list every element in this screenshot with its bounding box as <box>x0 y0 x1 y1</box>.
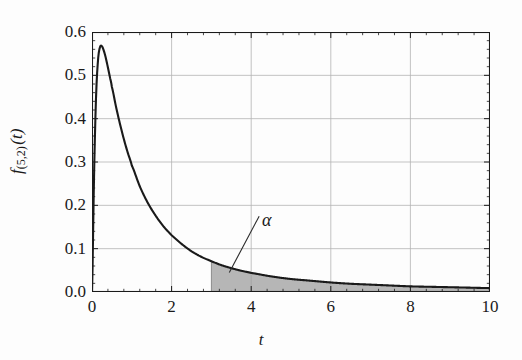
alpha-leader-line <box>229 216 259 272</box>
x-tick-label: 0 <box>72 298 112 315</box>
y-tick-label: 0.2 <box>38 196 86 213</box>
y-tick-label: 0.5 <box>38 66 86 83</box>
x-tick-label: 10 <box>470 298 510 315</box>
y-axis-label-base: f <box>7 169 26 174</box>
alpha-annotation-label: α <box>262 211 271 229</box>
figure-container: 0.00.10.20.30.40.50.6 0246810 t f(5,2) (… <box>0 0 522 360</box>
y-tick-label: 0.4 <box>38 110 86 127</box>
y-tick-label: 0.3 <box>38 153 86 170</box>
x-axis-label: t <box>0 330 522 350</box>
x-axis-tick-labels: 0246810 <box>92 298 490 322</box>
y-axis-tick-labels: 0.00.10.20.30.40.50.6 <box>34 32 86 292</box>
x-tick-label: 6 <box>311 298 351 315</box>
density-curve <box>92 46 490 292</box>
x-tick-label: 8 <box>390 298 430 315</box>
y-tick-label: 0.1 <box>38 240 86 257</box>
gridlines <box>92 32 490 292</box>
plot-svg <box>92 32 490 292</box>
y-axis-label: f(5,2) (t) <box>7 71 30 231</box>
y-axis-label-subscript: (5,2) <box>14 146 28 169</box>
plot-area <box>92 32 490 292</box>
x-tick-label: 2 <box>152 298 192 315</box>
y-axis-label-arg: (t) <box>7 129 26 145</box>
y-tick-label: 0.6 <box>38 23 86 40</box>
x-tick-label: 4 <box>231 298 271 315</box>
